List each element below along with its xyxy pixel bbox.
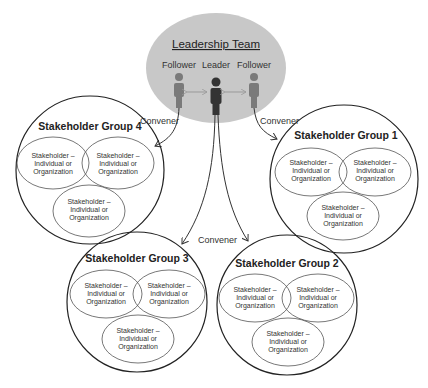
stakeholder-member: Stakeholder –Individual orOrganization [321,204,364,228]
convener-arrows [155,108,277,244]
convener-label-center: Convener [198,235,237,245]
stakeholder-group-2: Stakeholder Group 2 Stakeholder –Individ… [217,235,357,375]
stakeholder-diagram: Leadership Team Follower Leader Follower [0,0,428,388]
group-title: Stakeholder Group 4 [38,120,141,132]
stakeholder-member: Stakeholder –Individual orOrganization [67,198,110,222]
stakeholder-member: Stakeholder –Individual orOrganization [289,159,332,183]
stakeholder-member: Stakeholder –Individual orOrganization [147,282,190,306]
stakeholder-member: Stakeholder –Individual orOrganization [233,286,276,310]
role-leader: Leader [202,60,230,70]
role-follower-left: Follower [162,60,196,70]
stakeholder-group-1: Stakeholder Group 1 Stakeholder –Individ… [270,105,418,253]
stakeholder-member: Stakeholder –Individual orOrganization [31,152,74,176]
group-title: Stakeholder Group 1 [294,129,397,141]
stakeholder-member: Stakeholder –Individual orOrganization [296,286,339,310]
stakeholder-member: Stakeholder –Individual orOrganization [353,159,396,183]
leadership-team: Leadership Team Follower Leader Follower [146,13,286,123]
role-follower-right: Follower [237,60,271,70]
stakeholder-member: Stakeholder –Individual orOrganization [96,152,139,176]
group-title: Stakeholder Group 2 [235,257,338,269]
stakeholder-member: Stakeholder –Individual orOrganization [84,282,127,306]
stakeholder-group-3: Stakeholder Group 3 Stakeholder –Individ… [67,232,207,372]
group-title: Stakeholder Group 3 [85,252,188,264]
stakeholder-member: Stakeholder –Individual orOrganization [116,327,159,351]
leadership-title: Leadership Team [172,38,260,50]
stakeholder-member: Stakeholder –Individual orOrganization [266,330,309,354]
